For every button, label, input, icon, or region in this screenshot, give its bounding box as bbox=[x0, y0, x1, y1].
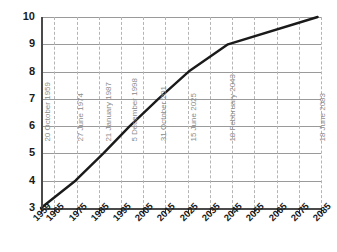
y-axis-tick-label: 4 bbox=[9, 175, 35, 186]
y-axis-line bbox=[41, 17, 43, 210]
chart-container: 109876543 20 October 195927 June 197421 … bbox=[0, 0, 337, 252]
date-annotation-label: 21 January 1987 bbox=[105, 82, 113, 142]
y-axis-tick-label: 9 bbox=[9, 38, 35, 49]
date-annotation-label: 18 Febbruary 2043 bbox=[229, 74, 237, 142]
date-annotation-label: 5 December 1998 bbox=[131, 78, 139, 142]
plot-area: 20 October 195927 June 197421 January 19… bbox=[41, 17, 321, 210]
y-axis-tick-label: 5 bbox=[9, 147, 35, 158]
y-axis-tick-label: 8 bbox=[9, 66, 35, 77]
y-axis-tick-label: 6 bbox=[9, 120, 35, 131]
date-annotation-label: 18 June 2083 bbox=[319, 93, 327, 142]
y-axis-tick-label: 3 bbox=[9, 202, 35, 213]
date-annotation-label: 20 October 1959 bbox=[44, 82, 52, 142]
y-axis-tick-label: 7 bbox=[9, 93, 35, 104]
date-annotation-label: 27 June 1974 bbox=[77, 93, 85, 142]
y-axis-tick-label: 10 bbox=[9, 11, 35, 22]
date-annotation-label: 15 June 2025 bbox=[190, 93, 198, 142]
date-annotation-label: 31 October 201 bbox=[160, 86, 168, 141]
